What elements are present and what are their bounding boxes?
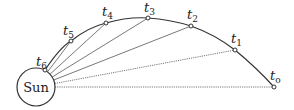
orbit-point-t0: [272, 85, 276, 89]
orbit-point-t4: [104, 21, 108, 25]
label-subscript-t5: 5: [68, 30, 74, 40]
orbit-arc: [45, 18, 274, 87]
sun: Sun: [17, 68, 55, 106]
sun-label: Sun: [23, 80, 49, 95]
label-t1: t1: [231, 31, 242, 48]
label-subscript-t4: 4: [107, 11, 113, 21]
orbit-points: tot1t2t3t4t5t6: [36, 0, 281, 89]
label-t4: t4: [102, 4, 113, 21]
label-subscript-t6: 6: [41, 61, 47, 71]
orbit-point-t1: [233, 48, 237, 52]
radius-line-t1: [55, 50, 235, 84]
label-t0: to: [270, 68, 281, 85]
label-t5: t5: [63, 23, 74, 40]
orbit-diagram: Sun tot1t2t3t4t5t6: [0, 0, 294, 110]
label-t2: t2: [187, 7, 198, 24]
label-subscript-t1: 1: [236, 38, 242, 48]
label-t6: t6: [36, 54, 47, 71]
label-t3: t3: [144, 0, 155, 17]
radius-lines: [45, 18, 274, 87]
label-subscript-t2: 2: [192, 14, 198, 24]
label-subscript-t3: 3: [149, 7, 155, 17]
orbit-point-t2: [189, 24, 193, 28]
label-subscript-t0: o: [275, 75, 280, 85]
